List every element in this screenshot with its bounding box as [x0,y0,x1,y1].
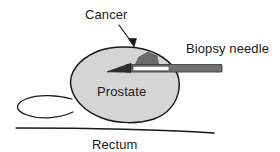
rectum-wall-line [16,128,214,133]
cancer-pointer-arrow-head [129,39,137,48]
label-cancer: Cancer [85,7,128,22]
figure-canvas: Cancer Biopsy needle Prostate Rectum [0,0,280,152]
needle-sample-window [133,66,169,71]
label-prostate: Prostate [97,84,146,99]
seminal-vesicle-ellipse [17,96,73,118]
prostate-biopsy-diagram [0,0,280,152]
label-rectum: Rectum [92,137,137,152]
label-biopsy-needle: Biopsy needle [186,41,269,56]
